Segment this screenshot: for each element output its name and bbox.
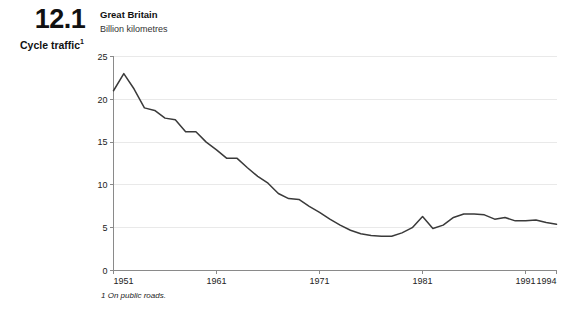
grid-lines (114, 57, 557, 228)
tick-marks (110, 57, 557, 275)
chart-footnote: 1 On public roads. (101, 291, 166, 300)
x-tick-label-1961: 1961 (207, 276, 227, 286)
x-tick-label-1951: 1951 (114, 276, 134, 286)
data-series (114, 74, 557, 237)
tick-labels: 0510152025195119611971198119911994 (97, 52, 556, 286)
x-tick-label-1981: 1981 (413, 276, 433, 286)
series-line-0 (114, 74, 557, 237)
y-tick-label-20: 20 (97, 95, 107, 105)
y-tick-label-15: 15 (97, 137, 107, 147)
y-tick-label-0: 0 (102, 266, 107, 276)
y-tick-label-10: 10 (97, 180, 107, 190)
line-chart-plot: 0510152025195119611971198119911994 (0, 0, 579, 310)
y-tick-label-5: 5 (102, 223, 107, 233)
x-tick-label-1994: 1994 (536, 276, 556, 286)
x-tick-label-1991: 1991 (516, 276, 536, 286)
chart-axes (114, 57, 557, 271)
x-tick-label-1971: 1971 (310, 276, 330, 286)
figure-page: 12.1 Cycle traffic1 Great Britain Billio… (0, 0, 579, 310)
y-tick-label-25: 25 (97, 52, 107, 62)
